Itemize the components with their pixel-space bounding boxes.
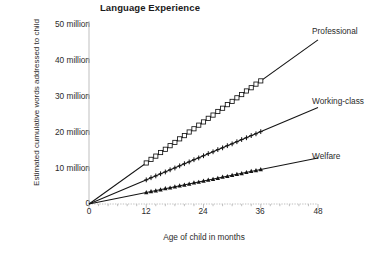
data-point — [159, 171, 163, 176]
data-point — [149, 175, 153, 180]
data-point — [168, 167, 172, 172]
data-point — [225, 143, 229, 148]
data-point — [163, 147, 167, 151]
data-point — [240, 137, 244, 142]
data-point — [187, 159, 191, 164]
data-point — [230, 141, 234, 146]
data-point — [197, 123, 201, 127]
data-point — [235, 139, 239, 144]
data-point — [197, 156, 201, 161]
series-group — [89, 40, 318, 204]
data-point — [173, 140, 177, 144]
language-experience-chart-figure: Language Experience Estimated cumulative… — [0, 0, 386, 254]
data-point — [254, 82, 258, 86]
data-point — [144, 177, 148, 182]
data-point — [154, 154, 158, 158]
data-point — [149, 157, 153, 161]
data-point — [192, 127, 196, 131]
data-point — [220, 106, 224, 110]
data-point — [178, 137, 182, 141]
data-point — [182, 161, 186, 166]
data-point — [202, 153, 206, 158]
data-point — [249, 133, 253, 138]
data-point — [240, 92, 244, 96]
data-point — [259, 79, 263, 83]
data-point — [163, 170, 167, 175]
data-point — [206, 116, 210, 120]
data-point — [211, 149, 215, 154]
data-point — [225, 103, 229, 107]
data-point — [168, 144, 172, 148]
axes-group — [86, 21, 318, 208]
data-point — [178, 163, 182, 168]
data-point — [235, 96, 239, 100]
data-point — [206, 151, 210, 156]
data-point — [254, 131, 258, 136]
data-point — [259, 129, 263, 134]
plot-area — [0, 0, 386, 254]
data-point — [230, 99, 234, 103]
data-point — [249, 86, 253, 90]
data-point — [244, 89, 248, 93]
data-point — [221, 145, 225, 150]
data-point — [211, 113, 215, 117]
data-point — [192, 157, 196, 162]
data-point — [201, 120, 205, 124]
data-point — [216, 147, 220, 152]
data-point — [144, 161, 148, 165]
data-point — [216, 109, 220, 113]
data-point — [244, 135, 248, 140]
data-point — [154, 174, 158, 179]
series-welfare — [89, 158, 318, 204]
data-point — [173, 166, 177, 171]
data-point — [187, 130, 191, 134]
data-point — [158, 150, 162, 154]
data-point — [182, 134, 186, 138]
